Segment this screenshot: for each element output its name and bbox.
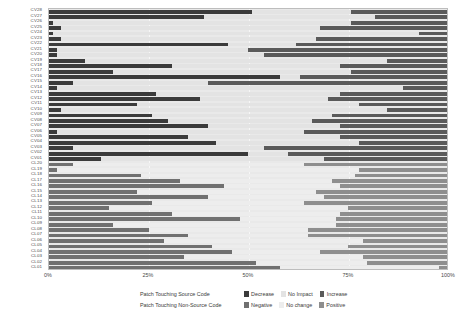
bar-row: [49, 179, 447, 183]
bar-segment-positive: [336, 217, 447, 221]
legend-title-nonsource: Patch Touching Non-Source Code: [140, 302, 244, 308]
bar-segment-negative: [49, 223, 113, 227]
bar-segment-no-impact: [152, 114, 331, 118]
bar-segment-positive: [336, 223, 447, 227]
bar-row: [49, 10, 447, 14]
y-axis-tick-label: CL16: [31, 183, 42, 187]
bar-segment-decrease: [49, 15, 204, 19]
bar-row: [49, 206, 447, 210]
bar-row: [49, 234, 447, 238]
bar-row: [49, 48, 447, 52]
y-axis-tick-label: CL05: [31, 243, 42, 247]
x-axis-tick-label: 100%: [441, 272, 455, 278]
bar-segment-no-change: [280, 266, 439, 270]
bar-segment-decrease: [49, 124, 208, 128]
bar-segment-no-impact: [73, 81, 208, 85]
bar-segment-negative: [49, 228, 149, 232]
bar-segment-no-change: [232, 250, 320, 254]
bar-segment-increase: [387, 59, 447, 63]
bar-segment-no-change: [240, 217, 336, 221]
bar-segment-no-impact: [216, 141, 359, 145]
bar-segment-decrease: [49, 64, 172, 68]
bar-row: [49, 245, 447, 249]
bar-segment-positive: [316, 190, 447, 194]
bar-row: [49, 103, 447, 107]
bar-row: [49, 195, 447, 199]
bar-segment-positive: [363, 239, 447, 243]
bar-segment-no-change: [208, 195, 323, 199]
bar-rows: [49, 9, 447, 269]
bar-segment-decrease: [49, 157, 101, 161]
bar-segment-negative: [49, 239, 164, 243]
bar-segment-increase: [359, 141, 447, 145]
bar-row: [49, 255, 447, 259]
bar-row: [49, 108, 447, 112]
bar-segment-no-change: [184, 255, 363, 259]
bar-segment-no-impact: [208, 124, 339, 128]
bar-segment-no-impact: [137, 103, 360, 107]
bar-segment-decrease: [49, 59, 85, 63]
bar-row: [49, 146, 447, 150]
bar-segment-no-impact: [204, 15, 375, 19]
bar-row: [49, 135, 447, 139]
bar-segment-decrease: [49, 75, 280, 79]
legend-label-decrease: Decrease: [251, 291, 274, 297]
bar-segment-no-impact: [61, 108, 387, 112]
bar-segment-no-impact: [53, 32, 419, 36]
bar-row: [49, 157, 447, 161]
bar-row: [49, 141, 447, 145]
bar-segment-no-change: [152, 201, 303, 205]
bar-segment-positive: [348, 206, 448, 210]
bar-row: [49, 152, 447, 156]
legend-swatch-increase: [320, 291, 325, 297]
y-axis-tick-label: CL07: [31, 232, 42, 236]
bar-segment-no-impact: [248, 152, 288, 156]
bar-row: [49, 26, 447, 30]
bar-segment-no-impact: [85, 59, 387, 63]
bar-segment-increase: [316, 37, 447, 41]
bar-segment-increase: [359, 103, 447, 107]
y-axis-tick-label: CL03: [31, 254, 42, 258]
legend-key-no-impact: No Impact: [281, 291, 313, 297]
x-axis-tick-label: 50%: [243, 272, 254, 278]
bar-segment-decrease: [49, 70, 113, 74]
bar-segment-negative: [49, 212, 172, 216]
bar-segment-no-change: [224, 184, 339, 188]
bar-segment-no-change: [141, 174, 356, 178]
bar-row: [49, 114, 447, 118]
y-axis-tick-label: CV11: [31, 101, 42, 105]
legend-row-source: Patch Touching Source Code Decrease No I…: [140, 288, 410, 299]
bar-row: [49, 217, 447, 221]
bar-segment-increase: [387, 108, 447, 112]
legend-label-increase: Increase: [327, 291, 348, 297]
bar-segment-positive: [324, 195, 447, 199]
bar-segment-positive: [348, 245, 448, 249]
bar-row: [49, 190, 447, 194]
bar-row: [49, 15, 447, 19]
legend-swatch-positive: [319, 302, 324, 308]
bar-row: [49, 124, 447, 128]
bar-segment-no-change: [149, 228, 308, 232]
bar-segment-decrease: [49, 86, 57, 90]
bar-segment-negative: [49, 195, 208, 199]
y-axis-tick-label: CL18: [31, 172, 42, 176]
bar-segment-increase: [324, 157, 447, 161]
bar-segment-no-change: [256, 261, 367, 265]
legend-swatch-no-change: [279, 302, 284, 308]
bar-segment-no-change: [188, 234, 307, 238]
bar-row: [49, 59, 447, 63]
bar-segment-no-impact: [57, 53, 264, 57]
bar-row: [49, 266, 447, 270]
legend-keys-source: Decrease No Impact Increase: [244, 291, 347, 297]
bar-row: [49, 75, 447, 79]
bar-row: [49, 228, 447, 232]
bar-segment-decrease: [49, 135, 188, 139]
legend: Patch Touching Source Code Decrease No I…: [140, 288, 410, 312]
bar-segment-negative: [49, 261, 256, 265]
bar-segment-increase: [375, 15, 447, 19]
bar-segment-no-impact: [188, 135, 339, 139]
bar-segment-no-impact: [113, 70, 352, 74]
bar-segment-decrease: [49, 103, 137, 107]
bar-segment-increase: [264, 146, 447, 150]
plot-panel: [48, 8, 448, 270]
